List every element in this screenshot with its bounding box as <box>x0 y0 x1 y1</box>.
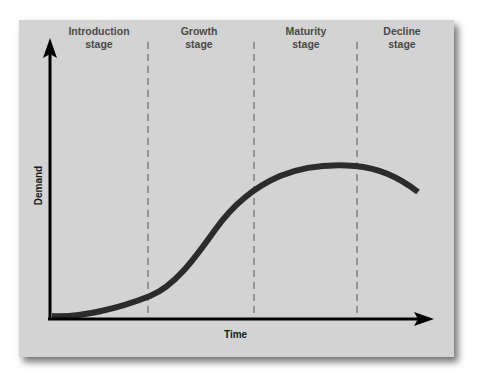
demand-curve <box>52 165 418 316</box>
stage-title: Decline <box>352 25 452 38</box>
stage-subtitle: stage <box>256 38 356 51</box>
stage-subtitle: stage <box>49 38 149 51</box>
stage-label-introduction: Introduction stage <box>49 25 149 51</box>
stage-label-decline: Decline stage <box>352 25 452 51</box>
y-axis-label: Demand <box>33 161 44 211</box>
lifecycle-chart <box>0 0 482 385</box>
stage-title: Maturity <box>256 25 356 38</box>
stage-title: Introduction <box>49 25 149 38</box>
stage-label-growth: Growth stage <box>149 25 249 51</box>
stage-title: Growth <box>149 25 249 38</box>
stage-label-maturity: Maturity stage <box>256 25 356 51</box>
x-axis-label: Time <box>224 329 247 340</box>
stage-subtitle: stage <box>352 38 452 51</box>
stage-subtitle: stage <box>149 38 249 51</box>
